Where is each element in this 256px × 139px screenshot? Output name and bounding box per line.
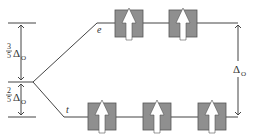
lower-gap-label: 2 5 Δ O	[6, 86, 26, 106]
svg-text:O: O	[21, 54, 26, 62]
upper-gap-label: 3 5 Δ O	[6, 42, 26, 62]
t-orbital-1	[88, 100, 116, 133]
t-orbital-3	[198, 100, 226, 133]
svg-text:O: O	[241, 70, 246, 78]
e-orbital-1	[115, 8, 143, 40]
crystal-field-diagram: 3 5 Δ O 2 5 Δ O e t	[0, 0, 256, 139]
svg-text:5: 5	[7, 51, 11, 60]
svg-text:2: 2	[7, 86, 11, 95]
svg-text:Δ: Δ	[233, 63, 240, 75]
svg-text:3: 3	[7, 42, 11, 51]
svg-text:5: 5	[7, 95, 11, 104]
t-level-label: t	[66, 104, 69, 115]
t-orbital-2	[143, 100, 171, 133]
svg-text:Δ: Δ	[13, 91, 20, 103]
svg-text:O: O	[21, 98, 26, 106]
svg-text:Δ: Δ	[13, 47, 20, 59]
e-orbital-2	[169, 8, 197, 40]
e-level-label: e	[97, 24, 102, 35]
